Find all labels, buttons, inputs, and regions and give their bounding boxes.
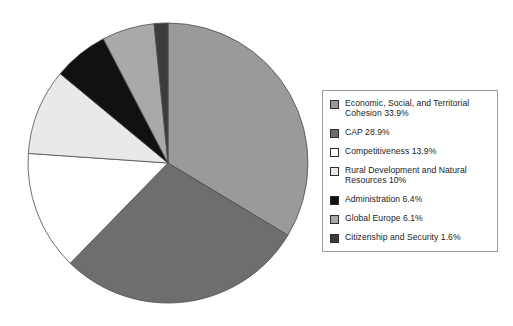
- legend-swatch-icon: [330, 129, 339, 138]
- legend-swatch-icon: [330, 215, 339, 224]
- legend-item-label: Global Europe 6.1%: [345, 213, 423, 223]
- legend-item[interactable]: Global Europe 6.1%: [330, 213, 489, 224]
- pie-slice-group: [28, 23, 308, 303]
- legend-swatch-icon: [330, 196, 339, 205]
- chart-legend: Economic, Social, and Territorial Cohesi…: [322, 90, 498, 252]
- pie-chart-figure: Economic, Social, and Territorial Cohesi…: [0, 0, 513, 326]
- legend-item[interactable]: Rural Development and Natural Resources …: [330, 165, 489, 186]
- legend-item[interactable]: Competitiveness 13.9%: [330, 146, 489, 157]
- legend-item[interactable]: Administration 6.4%: [330, 194, 489, 205]
- legend-swatch-icon: [330, 100, 339, 109]
- legend-item[interactable]: Citizenship and Security 1.6%: [330, 232, 489, 243]
- legend-swatch-icon: [330, 234, 339, 243]
- legend-item-label: Economic, Social, and Territorial Cohesi…: [345, 98, 469, 119]
- legend-item[interactable]: Economic, Social, and Territorial Cohesi…: [330, 98, 489, 119]
- legend-item-label: CAP 28.9%: [345, 127, 390, 137]
- legend-swatch-icon: [330, 148, 339, 157]
- legend-item-label: Citizenship and Security 1.6%: [345, 232, 461, 242]
- legend-item[interactable]: CAP 28.9%: [330, 127, 489, 138]
- legend-item-label: Competitiveness 13.9%: [345, 146, 436, 156]
- legend-swatch-icon: [330, 167, 339, 176]
- legend-item-label: Rural Development and Natural Resources …: [345, 165, 467, 186]
- legend-item-label: Administration 6.4%: [345, 194, 422, 204]
